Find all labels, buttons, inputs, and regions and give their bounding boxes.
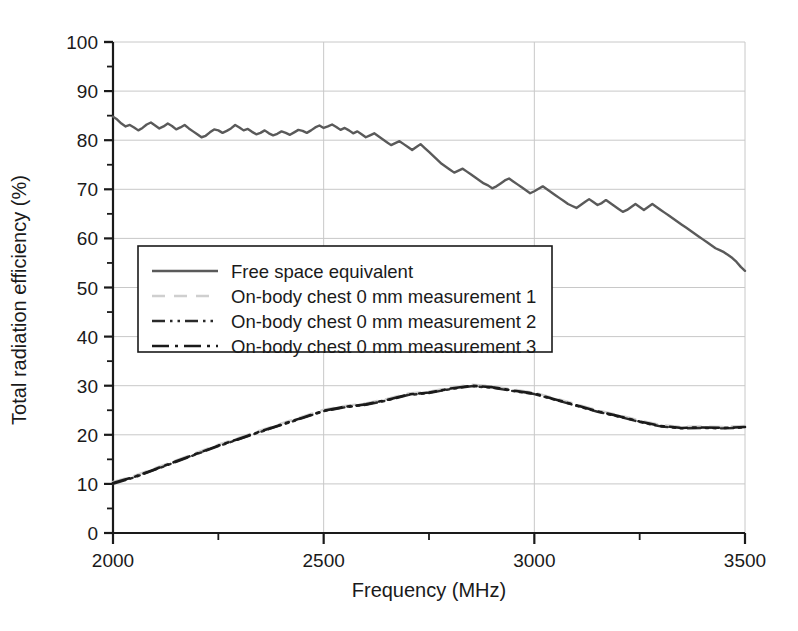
chart-legend: Free space equivalentOn-body chest 0 mm … bbox=[138, 246, 552, 357]
y-tick-label: 70 bbox=[77, 179, 98, 200]
legend-label-4: On-body chest 0 mm measurement 3 bbox=[231, 336, 536, 357]
x-tick-label: 2500 bbox=[303, 550, 345, 571]
radiation-efficiency-chart: 2000250030003500 0102030405060708090100 … bbox=[0, 0, 798, 631]
y-axis-title: Total radiation efficiency (%) bbox=[8, 175, 30, 425]
y-tick-label: 100 bbox=[66, 32, 98, 53]
figure-container: 2000250030003500 0102030405060708090100 … bbox=[0, 0, 798, 631]
y-tick-label: 10 bbox=[77, 474, 98, 495]
legend-label-1: Free space equivalent bbox=[231, 261, 413, 282]
y-tick-label: 40 bbox=[77, 327, 98, 348]
legend-label-3: On-body chest 0 mm measurement 2 bbox=[231, 311, 536, 332]
y-tick-label: 20 bbox=[77, 425, 98, 446]
y-tick-label: 30 bbox=[77, 376, 98, 397]
x-tick-label: 3000 bbox=[513, 550, 555, 571]
y-tick-label: 90 bbox=[77, 81, 98, 102]
y-tick-label: 50 bbox=[77, 278, 98, 299]
y-tick-label: 80 bbox=[77, 130, 98, 151]
x-axis-title: Frequency (MHz) bbox=[352, 579, 506, 601]
x-tick-label: 2000 bbox=[92, 550, 134, 571]
y-tick-label: 0 bbox=[87, 523, 98, 544]
x-tick-label: 3500 bbox=[724, 550, 766, 571]
legend-label-2: On-body chest 0 mm measurement 1 bbox=[231, 286, 536, 307]
y-tick-label: 60 bbox=[77, 228, 98, 249]
